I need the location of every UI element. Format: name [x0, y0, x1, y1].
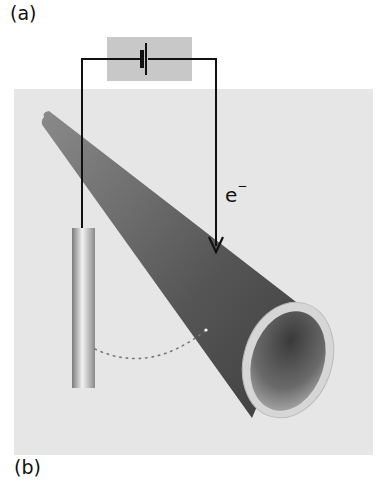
electrode-rod	[72, 228, 95, 388]
electron-charge: −	[237, 179, 247, 193]
electron-label: e−	[225, 183, 247, 207]
diagram-canvas	[0, 0, 378, 485]
arc-end-dot	[204, 328, 207, 331]
panel-label-b: (b)	[14, 456, 41, 478]
battery-positive-plate	[145, 43, 147, 75]
electron-symbol: e	[225, 183, 237, 207]
battery-negative-plate	[140, 50, 144, 68]
